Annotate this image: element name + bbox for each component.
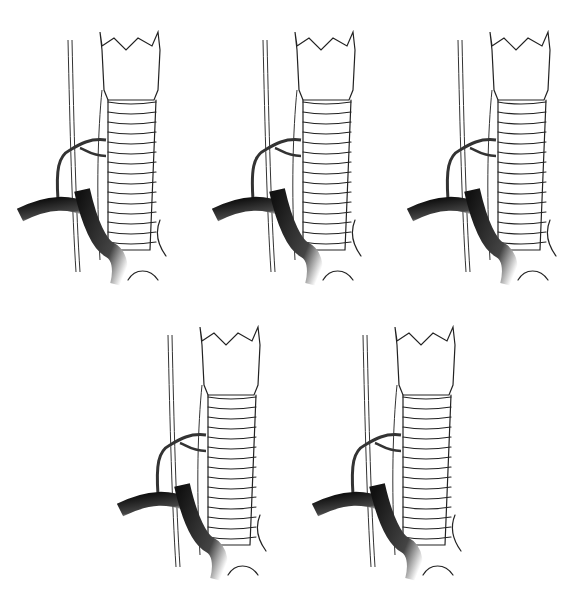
common-carotid-artery: [82, 190, 120, 285]
aortic-contour: [323, 271, 353, 280]
common-carotid-artery: [182, 485, 220, 580]
tracheal-rings: [403, 395, 451, 545]
larynx: [100, 32, 160, 100]
larynx: [295, 32, 355, 100]
larynx: [200, 327, 260, 395]
panel-1: [10, 10, 190, 290]
tracheal-rings: [498, 100, 546, 250]
tracheal-rings: [303, 100, 351, 250]
panel-3: [400, 10, 580, 290]
trachea-illustration: [305, 305, 485, 585]
panel-2: [205, 10, 385, 290]
common-carotid-artery: [472, 190, 510, 285]
tracheal-rings: [208, 395, 256, 545]
aortic-contour: [518, 271, 548, 280]
common-carotid-artery: [277, 190, 315, 285]
larynx: [490, 32, 550, 100]
panel-5: [305, 305, 485, 585]
trachea-illustration: [10, 10, 190, 290]
aortic-contour: [228, 566, 258, 575]
trachea-illustration: [110, 305, 290, 585]
aortic-contour: [128, 271, 158, 280]
trachea-illustration: [205, 10, 385, 290]
trachea-illustration: [400, 10, 580, 290]
larynx: [395, 327, 455, 395]
tracheal-rings: [108, 100, 156, 250]
common-carotid-artery: [377, 485, 415, 580]
panel-4: [110, 305, 290, 585]
aortic-contour: [423, 566, 453, 575]
